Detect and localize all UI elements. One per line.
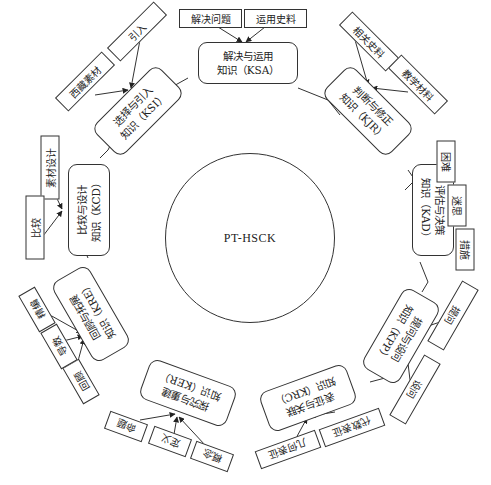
node-kad-line2: 知识（KAD） (419, 178, 433, 241)
leaf-kcd-2: 比较 (26, 196, 45, 260)
leaf-kcd-1: 素材设计 (41, 136, 60, 200)
node-kcd: 比较与设计 知识（KCD） (68, 164, 110, 256)
leaf-kad-2: 迷思 (448, 185, 467, 227)
leaf-kad-1: 困难 (437, 141, 456, 183)
node-ksa-line2: 知识（KSA） (217, 63, 280, 77)
leaf-kad-3: 措施 (456, 229, 475, 271)
node-ksa-line1: 解决与运用 (223, 49, 273, 63)
center-label: PT-HSCK (224, 231, 276, 246)
center-circle: PT-HSCK (165, 153, 335, 323)
leaf-ksa-2: 运用史料 (244, 9, 307, 28)
node-kcd-line1: 比较与设计 (75, 185, 89, 235)
node-kcd-line2: 知识（KCD） (89, 178, 103, 242)
node-ksa: 解决与运用 知识（KSA） (198, 42, 298, 84)
leaf-ksa-1: 解决问题 (179, 9, 242, 28)
node-kad-line1: 评估与决策 (433, 185, 447, 235)
